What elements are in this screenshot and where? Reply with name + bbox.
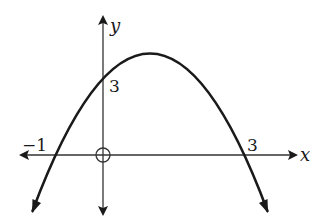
- parabola-diagram: y x 3 −1 3: [0, 0, 326, 218]
- x-axis-label: x: [300, 144, 310, 165]
- curve-arrow-left-icon: [32, 199, 41, 213]
- parabola-curve: [33, 54, 268, 212]
- x-intercept-left-label: −1: [22, 135, 47, 155]
- y-axis-label: y: [109, 15, 121, 36]
- y-intercept-label: 3: [109, 76, 120, 96]
- x-intercept-right-label: 3: [247, 135, 258, 155]
- curve-arrow-right-icon: [259, 199, 268, 213]
